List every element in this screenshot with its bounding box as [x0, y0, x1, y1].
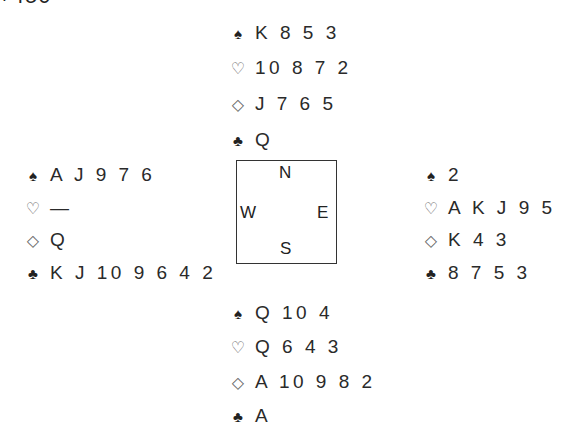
east-clubs-row: ♣ 8 7 5 3 — [420, 258, 531, 288]
north-clubs-row: ♣ Q — [227, 125, 273, 155]
east-spades-row: ♠ 2 — [420, 160, 462, 190]
west-clubs: K J 10 9 6 4 2 — [50, 262, 216, 284]
club-icon: ♣ — [420, 265, 442, 282]
south-clubs: A — [255, 405, 271, 427]
west-spades: A J 9 7 6 — [50, 164, 155, 186]
west-hearts: — — [50, 197, 73, 219]
west-hearts-row: ♡ — — [22, 193, 73, 223]
east-diamonds-row: ◇ K 4 3 — [420, 225, 510, 255]
south-diamonds: A 10 9 8 2 — [255, 371, 376, 393]
club-icon: ♣ — [227, 408, 249, 425]
south-diamonds-row: ◇ A 10 9 8 2 — [227, 367, 376, 397]
north-hearts-row: ♡ 10 8 7 2 — [227, 53, 352, 83]
south-spades: Q 10 4 — [255, 302, 333, 324]
spade-icon: ♠ — [227, 305, 249, 322]
club-icon: ♣ — [227, 132, 249, 149]
north-clubs: Q — [255, 129, 273, 151]
compass-north: N — [279, 163, 291, 183]
east-spades: 2 — [448, 164, 462, 186]
north-diamonds-row: ◇ J 7 6 5 — [227, 89, 337, 119]
east-diamonds: K 4 3 — [448, 229, 510, 251]
west-diamonds: Q — [50, 229, 68, 251]
diamond-icon: ◇ — [227, 95, 249, 114]
spade-icon: ♠ — [420, 167, 442, 184]
compass-south: S — [280, 239, 291, 259]
compass-box: N W E S — [236, 160, 337, 264]
north-diamonds: J 7 6 5 — [255, 93, 337, 115]
south-hearts: Q 6 4 3 — [255, 336, 342, 358]
heart-icon: ♡ — [227, 338, 249, 357]
south-hearts-row: ♡ Q 6 4 3 — [227, 332, 342, 362]
west-spades-row: ♠ A J 9 7 6 — [22, 160, 155, 190]
east-hearts: A K J 9 5 — [448, 197, 556, 219]
spade-icon: ♠ — [22, 167, 44, 184]
north-spades: K 8 5 3 — [255, 22, 340, 44]
north-hearts: 10 8 7 2 — [255, 57, 352, 79]
score-label: +450 — [0, 0, 52, 9]
diamond-icon: ◇ — [420, 231, 442, 250]
heart-icon: ♡ — [22, 199, 44, 218]
compass-west: W — [240, 203, 256, 223]
south-spades-row: ♠ Q 10 4 — [227, 298, 333, 328]
west-diamonds-row: ◇ Q — [22, 225, 68, 255]
west-clubs-row: ♣ K J 10 9 6 4 2 — [22, 258, 216, 288]
south-clubs-row: ♣ A — [227, 401, 271, 431]
north-spades-row: ♠ K 8 5 3 — [227, 18, 340, 48]
club-icon: ♣ — [22, 265, 44, 282]
diamond-icon: ◇ — [227, 373, 249, 392]
compass-east: E — [317, 203, 328, 223]
east-hearts-row: ♡ A K J 9 5 — [420, 193, 556, 223]
heart-icon: ♡ — [420, 199, 442, 218]
east-clubs: 8 7 5 3 — [448, 262, 531, 284]
diamond-icon: ◇ — [22, 231, 44, 250]
heart-icon: ♡ — [227, 59, 249, 78]
spade-icon: ♠ — [227, 25, 249, 42]
